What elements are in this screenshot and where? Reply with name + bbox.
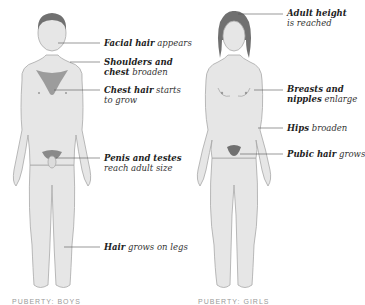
female-head (223, 21, 245, 51)
female-legs (210, 158, 257, 288)
label-penis-testes-2: reach adult size (104, 163, 173, 173)
male-caption: PUBERTY: BOYS (12, 298, 81, 305)
label-nipples: nipples enlarge (287, 94, 357, 104)
label-breasts: Breasts and (287, 84, 344, 94)
label-pubic-hair: Pubic hair grows (287, 149, 365, 159)
label-chest-broaden: chest broaden (104, 67, 168, 77)
label-adult-height: Adult height (287, 8, 347, 18)
label-leg-hair: Hair grows on legs (104, 242, 188, 252)
label-adult-height-2: is reached (287, 18, 332, 28)
label-facial-hair: Facial hair appears (104, 38, 192, 48)
female-caption: PUBERTY: GIRLS (198, 298, 269, 305)
male-figure (13, 13, 90, 288)
label-penis-testes: Penis and testes (104, 153, 182, 163)
female-figure (197, 11, 270, 288)
male-legs (29, 165, 74, 288)
label-hips: Hips broaden (287, 123, 347, 133)
label-chest-hair-2: to grow (104, 95, 137, 105)
label-chest-hair: Chest hair starts (104, 85, 181, 95)
label-shoulders: Shoulders and (104, 57, 173, 67)
